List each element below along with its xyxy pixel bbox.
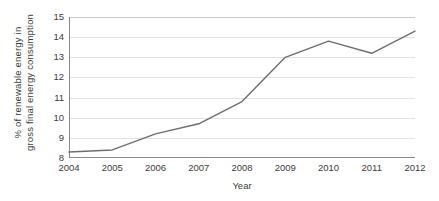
plot-area bbox=[69, 17, 415, 158]
x-tick-label-2008: 2008 bbox=[231, 162, 252, 174]
y-axis-title-line-1: % of renewable energy in bbox=[13, 14, 25, 151]
x-tick-label-2004: 2004 bbox=[58, 162, 79, 174]
x-tick-label-2006: 2006 bbox=[145, 162, 166, 174]
y-tick-label-13: 13 bbox=[40, 52, 64, 62]
x-tick-label-2010: 2010 bbox=[318, 162, 339, 174]
y-axis-title-line-2: gross final energy consumption bbox=[24, 14, 36, 151]
line-chart: % of renewable energy in gross final ene… bbox=[0, 0, 439, 201]
y-tick-label-10: 10 bbox=[40, 113, 64, 123]
y-tick-label-11: 11 bbox=[40, 93, 64, 103]
x-tick-label-2012: 2012 bbox=[404, 162, 425, 174]
series-line bbox=[69, 31, 415, 152]
x-axis-tick-labels: 200420052006200720082009201020112012 bbox=[69, 162, 415, 176]
y-axis-tick-labels: 89101112131415 bbox=[40, 10, 64, 162]
x-tick-label-2007: 2007 bbox=[188, 162, 209, 174]
y-tick-label-9: 9 bbox=[40, 133, 64, 143]
x-tick-label-2005: 2005 bbox=[102, 162, 123, 174]
y-tick-label-15: 15 bbox=[40, 12, 64, 22]
x-axis-title: Year bbox=[69, 180, 415, 191]
x-tick-label-2009: 2009 bbox=[275, 162, 296, 174]
y-tick-label-14: 14 bbox=[40, 32, 64, 42]
x-tick-label-2011: 2011 bbox=[362, 162, 382, 174]
y-tick-label-12: 12 bbox=[40, 72, 64, 82]
series-line-group bbox=[69, 17, 415, 158]
